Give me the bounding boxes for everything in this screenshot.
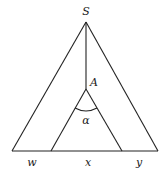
leaf-w-label: w: [27, 156, 37, 169]
node-a-label: A: [89, 76, 98, 89]
angle-label: α: [82, 114, 90, 127]
outer-left-edge: [12, 22, 86, 151]
angle-arc: [75, 108, 97, 111]
inner-left-edge: [51, 89, 86, 151]
leaf-y-label: y: [135, 156, 143, 169]
root-label: S: [82, 5, 90, 18]
inner-right-edge: [86, 89, 122, 151]
tree-diagram: S A α w x y: [0, 0, 167, 174]
leaf-x-label: x: [85, 156, 92, 169]
